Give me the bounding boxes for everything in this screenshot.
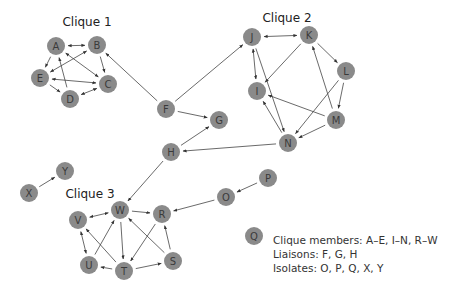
- node-label: G: [215, 115, 223, 126]
- edge-s-w: [129, 218, 165, 252]
- node-label: S: [170, 256, 176, 267]
- edge-t-u: [101, 267, 112, 269]
- edge-e-c: [52, 79, 96, 83]
- node-label: M: [332, 115, 341, 126]
- node-c: C: [99, 75, 117, 93]
- node-q: Q: [245, 227, 263, 245]
- node-label: L: [343, 66, 349, 77]
- node-label: W: [115, 205, 125, 216]
- legend-clique-members: Clique members: A–E, I–N, R–W: [273, 233, 438, 247]
- edge-k-l: [318, 43, 338, 62]
- node-label: K: [306, 30, 313, 41]
- node-label: X: [26, 188, 33, 199]
- edge-m-n: [299, 125, 325, 138]
- node-l: L: [337, 62, 355, 80]
- edge-m-i: [268, 95, 324, 116]
- clique-label: Clique 3: [65, 187, 114, 201]
- node-j: J: [243, 28, 261, 46]
- node-m: M: [327, 111, 345, 129]
- edge-k-i: [265, 44, 301, 82]
- legend: Clique members: A–E, I–N, R–W Liaisons: …: [273, 233, 438, 275]
- node-label: P: [265, 173, 271, 184]
- node-n: N: [279, 134, 297, 152]
- node-i: I: [248, 82, 266, 100]
- node-w: W: [111, 201, 129, 219]
- edge-n-h: [183, 144, 276, 151]
- node-label: N: [284, 138, 291, 149]
- edge-x-y: [39, 177, 55, 186]
- node-label: V: [75, 215, 82, 226]
- edge-w-r: [132, 211, 150, 213]
- edge-w-t: [121, 222, 123, 259]
- node-p: P: [259, 169, 277, 187]
- node-o: O: [217, 188, 235, 206]
- clique-label: Clique 1: [62, 15, 111, 29]
- node-v: V: [69, 211, 87, 229]
- node-label: Q: [250, 231, 258, 242]
- node-label: U: [85, 260, 92, 271]
- legend-liaisons: Liaisons: F, G, H: [273, 247, 438, 261]
- edge-o-r: [174, 200, 215, 211]
- node-f: F: [157, 100, 175, 118]
- edge-h-g: [181, 127, 209, 146]
- node-u: U: [80, 256, 98, 274]
- node-label: Y: [61, 166, 69, 177]
- edge-j-k: [264, 35, 297, 36]
- edge-l-m: [338, 83, 343, 108]
- node-label: E: [37, 73, 43, 84]
- node-t: T: [115, 262, 133, 280]
- node-k: K: [300, 26, 318, 44]
- edge-f-j: [175, 45, 243, 102]
- edge-v-w: [90, 213, 109, 217]
- node-r: R: [153, 205, 171, 223]
- node-label: J: [250, 32, 254, 43]
- edge-h-w: [128, 161, 163, 201]
- edge-e-d: [50, 85, 60, 92]
- edge-a-e: [45, 57, 50, 68]
- node-x: X: [20, 184, 38, 202]
- edge-f-g: [178, 111, 208, 117]
- node-label: O: [222, 192, 230, 203]
- edge-d-a: [59, 58, 67, 88]
- node-d: D: [61, 90, 79, 108]
- edge-m-k: [313, 46, 333, 108]
- edge-a-c: [66, 53, 99, 77]
- node-e: E: [31, 69, 49, 87]
- node-label: R: [159, 209, 166, 220]
- legend-isolates: Isolates: O, P, Q, X, Y: [273, 261, 438, 275]
- edge-p-o: [237, 183, 257, 192]
- node-h: H: [162, 143, 180, 161]
- node-label: I: [256, 86, 259, 97]
- edge-v-u: [81, 232, 86, 254]
- edge-d-c: [81, 88, 97, 94]
- node-b: B: [88, 36, 106, 54]
- node-g: G: [210, 111, 228, 129]
- node-label: D: [66, 94, 74, 105]
- node-label: B: [94, 40, 101, 51]
- clique-label: Clique 2: [262, 11, 311, 25]
- edge-j-i: [253, 49, 256, 79]
- edge-b-c: [100, 57, 104, 73]
- edge-s-r: [165, 226, 171, 250]
- node-label: A: [53, 41, 60, 52]
- edge-t-s: [136, 263, 161, 268]
- node-y: Y: [56, 162, 74, 180]
- node-label: F: [163, 104, 169, 115]
- node-label: H: [167, 147, 175, 158]
- node-label: T: [120, 266, 128, 277]
- node-s: S: [164, 252, 182, 270]
- node-label: C: [105, 79, 112, 90]
- node-a: A: [47, 37, 65, 55]
- edge-r-t: [131, 224, 156, 261]
